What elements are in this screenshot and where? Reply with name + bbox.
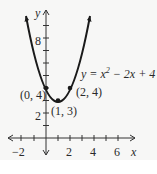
- y-tick-label: 2: [35, 109, 41, 123]
- x-tick-label: 6: [114, 145, 120, 159]
- parabola-chart: y x −2 2 4 6 2 8 (0, 4) (1, 3) (2, 4) y …: [0, 0, 157, 174]
- equation-label: y = x2 − 2x + 4: [80, 66, 155, 81]
- x-tick-label: 4: [90, 145, 96, 159]
- point-label-0-4: (0, 4): [20, 88, 46, 102]
- equation-rhs: − 2x + 4: [110, 67, 156, 81]
- x-tick-label: 2: [66, 145, 72, 159]
- point-1-3: [56, 98, 61, 103]
- y-axis-label: y: [34, 6, 41, 20]
- point-label-2-4: (2, 4): [76, 85, 102, 99]
- point-label-1-3: (1, 3): [51, 104, 77, 118]
- x-axis: [8, 135, 135, 141]
- y-tick-label: 8: [35, 34, 41, 48]
- point-2-4: [68, 86, 73, 91]
- equation-lhs: y = x: [80, 67, 106, 81]
- x-tick-label: −2: [12, 145, 25, 159]
- y-axis: [43, 10, 49, 155]
- x-axis-label: x: [130, 145, 137, 159]
